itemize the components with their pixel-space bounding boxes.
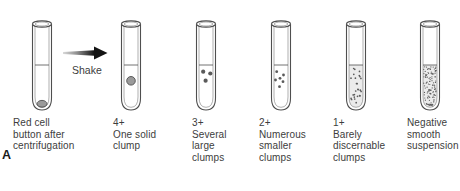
tube-label-line: Numerous bbox=[259, 129, 306, 141]
clump-dot bbox=[282, 74, 285, 77]
test-tube-graphic bbox=[415, 19, 445, 115]
tube-label-line: Red cell bbox=[13, 117, 74, 129]
tube-label-line: clumps bbox=[259, 152, 306, 164]
clump-dot bbox=[208, 71, 212, 75]
tube-label-line: 2+ bbox=[259, 117, 306, 129]
tube-label-line: 4+ bbox=[113, 117, 156, 129]
clump-dot bbox=[279, 77, 282, 80]
tube-label-grade-2plus: 2+Numeroussmallerclumps bbox=[259, 117, 306, 163]
arrow-head bbox=[94, 47, 108, 60]
shake-arrow-graphic bbox=[61, 44, 109, 62]
solid-clump bbox=[127, 77, 136, 86]
tube-label-line: 3+ bbox=[192, 117, 227, 129]
test-tube-grade-3plus bbox=[191, 19, 221, 115]
tube-label-centrifuged: Red cellbutton aftercentrifugation bbox=[13, 117, 74, 152]
tube-label-line: clumps bbox=[333, 152, 385, 164]
tube-label-line: 1+ bbox=[333, 117, 385, 129]
tube-label-line: One solid bbox=[113, 129, 156, 141]
shake-arrow-label: Shake bbox=[72, 64, 102, 76]
tube-label-line: Negative bbox=[407, 117, 459, 129]
test-tube-graphic bbox=[116, 19, 146, 115]
tube-label-line: centrifugation bbox=[13, 140, 74, 152]
tube-label-line: smooth bbox=[407, 129, 459, 141]
test-tube-graphic bbox=[191, 19, 221, 115]
arrow-tail bbox=[63, 50, 94, 56]
clump-dot bbox=[275, 70, 278, 73]
test-tube-graphic bbox=[27, 19, 57, 115]
test-tube-grade-1plus bbox=[341, 19, 371, 115]
tube-label-negative: Negativesmoothsuspension bbox=[407, 117, 459, 152]
tube-label-line: discernable bbox=[333, 140, 385, 152]
clump-dot bbox=[282, 80, 285, 83]
clump-dot bbox=[274, 79, 277, 82]
shake-arrow bbox=[61, 44, 109, 62]
test-tube-grade-4plus bbox=[116, 19, 146, 115]
clump-dot bbox=[278, 85, 281, 88]
tube-label-line: clump bbox=[113, 140, 156, 152]
test-tube-graphic bbox=[266, 19, 296, 115]
tube-label-grade-4plus: 4+One solidclump bbox=[113, 117, 156, 152]
tube-label-line: Barely bbox=[333, 129, 385, 141]
test-tube-negative bbox=[415, 19, 445, 115]
liquid-tint bbox=[349, 65, 363, 107]
tube-label-line: clumps bbox=[192, 152, 227, 164]
tube-label-grade-3plus: 3+Severallargeclumps bbox=[192, 117, 227, 163]
test-tube-grade-2plus bbox=[266, 19, 296, 115]
test-tube-graphic bbox=[341, 19, 371, 115]
tube-label-line: Several bbox=[192, 129, 227, 141]
tube-label-line: button after bbox=[13, 129, 74, 141]
panel-label: A bbox=[2, 148, 11, 162]
clump-dot bbox=[201, 70, 205, 74]
tube-label-line: large bbox=[192, 140, 227, 152]
tube-label-grade-1plus: 1+Barelydiscernableclumps bbox=[333, 117, 385, 163]
test-tube-centrifuged bbox=[27, 19, 57, 115]
clump-dot bbox=[204, 79, 208, 83]
tube-label-line: suspension bbox=[407, 140, 459, 152]
tube-label-line: smaller bbox=[259, 140, 306, 152]
agglutination-grading-figure: Shake Red cellbutton aftercentrifugation… bbox=[0, 0, 460, 191]
